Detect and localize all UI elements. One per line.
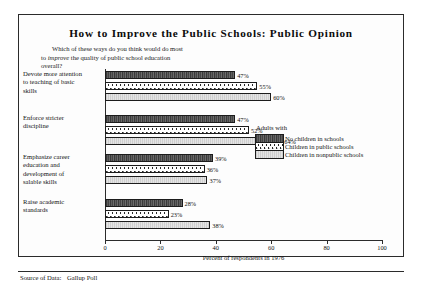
category-label-line: Enforce stricter <box>23 114 101 122</box>
category-label-line: Raise academic <box>23 198 101 206</box>
x-tick-label: 80 <box>323 244 329 251</box>
x-tick-mark <box>271 240 272 244</box>
subtitle-emphasis-improve: improve <box>48 54 69 61</box>
bar-row[interactable]: 37% <box>105 176 382 184</box>
legend-label: No children in schools <box>285 135 344 143</box>
bar-value-label: 47% <box>235 115 249 124</box>
legend-entries: No children in schoolsChildren in public… <box>255 134 284 159</box>
x-axis-line <box>105 240 382 241</box>
bar-value-label: 36% <box>205 165 219 174</box>
chart-title: How to Improve the Public Schools: Publi… <box>19 27 403 39</box>
bar-row[interactable]: 52% <box>105 126 382 134</box>
bar-value-label: 28% <box>183 199 197 208</box>
category-label-line: skills <box>23 87 101 95</box>
x-tick-label: 60 <box>268 244 274 251</box>
bar[interactable] <box>105 165 205 173</box>
legend-label: Children in public schools <box>285 143 353 151</box>
x-axis-title: Percent of respondents in 1976 <box>105 254 382 261</box>
category-label: Raise academicstandards <box>23 198 101 215</box>
x-tick-mark <box>327 240 328 244</box>
subtitle-line-2: to improve the quality of public school … <box>41 54 281 63</box>
category-label-line: standards <box>23 206 101 214</box>
bar-row[interactable]: 60% <box>105 93 382 101</box>
bar-value-label: 37% <box>207 176 221 185</box>
legend-item[interactable]: Children in nonpublic schools <box>256 151 283 158</box>
bar[interactable] <box>105 221 210 229</box>
legend-item[interactable]: No children in schools <box>256 135 283 143</box>
figure-panel: How to Improve the Public Schools: Publi… <box>18 14 404 257</box>
x-tick-label: 20 <box>157 244 163 251</box>
bar-value-label: 38% <box>210 221 224 230</box>
category-label: Enforce stricterdiscipline <box>23 114 101 131</box>
bar[interactable] <box>105 115 235 123</box>
x-tick-mark <box>105 240 106 244</box>
bar-value-label: 23% <box>169 210 183 219</box>
category-label-line: education and <box>23 161 101 169</box>
bar[interactable] <box>105 199 183 207</box>
bar-value-label: 39% <box>213 154 227 163</box>
bar[interactable] <box>105 82 257 90</box>
legend-swatch <box>256 143 283 150</box>
subtitle-line-1: Which of these ways do you think would d… <box>41 45 281 54</box>
category-label-line: development of <box>23 170 101 178</box>
bar-row[interactable]: 47% <box>105 71 382 79</box>
subtitle-line-2-pre: to <box>41 54 48 61</box>
category-label: Emphasize careereducation anddevelopment… <box>23 153 101 187</box>
bar[interactable] <box>105 93 271 101</box>
bar-value-label: 55% <box>257 82 271 91</box>
legend-label: Children in nonpublic schools <box>285 151 363 159</box>
bar[interactable] <box>105 176 207 184</box>
bar-value-label: 60% <box>271 93 285 102</box>
x-tick-mark <box>216 240 217 244</box>
chart-legend: Adults with No children in schoolsChildr… <box>255 124 287 159</box>
bar-row[interactable]: 47% <box>105 115 382 123</box>
bar-row[interactable]: 23% <box>105 210 382 218</box>
legend-swatch <box>256 135 283 142</box>
bar-row[interactable]: 36% <box>105 165 382 173</box>
bar-row[interactable]: 55% <box>105 82 382 90</box>
category-label-line: salable skills <box>23 178 101 186</box>
source-label: Source of Data: <box>20 274 61 281</box>
category-label: Devote more attentionto teaching of basi… <box>23 70 101 95</box>
source-divider <box>18 271 404 272</box>
bar-group: 28%23%38% <box>105 199 382 232</box>
chart-subtitle-question: Which of these ways do you think would d… <box>41 45 281 71</box>
bar-value-label: 47% <box>235 71 249 80</box>
bar-group: 47%55%60% <box>105 71 382 104</box>
category-label-line: discipline <box>23 122 101 130</box>
category-label-line: to teaching of basic <box>23 78 101 86</box>
x-tick-label: 40 <box>213 244 219 251</box>
legend-swatch <box>256 151 283 158</box>
source-value: Gallup Poll <box>63 274 97 281</box>
legend-item[interactable]: Children in public schools <box>256 143 283 151</box>
subtitle-line-2-post: the quality of public school education <box>69 54 170 61</box>
x-tick-mark <box>160 240 161 244</box>
legend-title: Adults with <box>255 124 287 131</box>
bar-group: 39%36%37% <box>105 154 382 187</box>
x-tick-label: 0 <box>103 244 106 251</box>
category-label-line: Devote more attention <box>23 70 101 78</box>
bar-row[interactable]: 28% <box>105 199 382 207</box>
bar-row[interactable]: 38% <box>105 221 382 229</box>
bar[interactable] <box>105 154 213 162</box>
x-tick-mark <box>382 240 383 244</box>
bar[interactable] <box>105 71 235 79</box>
category-label-line: Emphasize career <box>23 153 101 161</box>
source-note: Source of Data: Gallup Poll <box>20 274 97 281</box>
bar[interactable] <box>105 126 249 134</box>
x-tick-label: 100 <box>377 244 387 251</box>
bar[interactable] <box>105 210 169 218</box>
